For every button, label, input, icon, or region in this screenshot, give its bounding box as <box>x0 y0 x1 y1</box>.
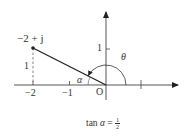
alpha-label: α <box>77 75 82 85</box>
alpha-arc <box>88 77 90 85</box>
point-label: −2 + j <box>17 33 43 44</box>
fraction-denominator: 2 <box>115 124 120 130</box>
caption-tan-alpha: tan α = 12 <box>86 117 120 130</box>
vertical-leg-label: 1 <box>24 61 29 71</box>
theta-label: θ <box>121 52 126 62</box>
origin-label: O <box>96 87 103 97</box>
theta-arc <box>88 65 126 85</box>
y-tick-label-1: 1 <box>97 43 102 53</box>
fraction-numerator: 1 <box>115 117 120 124</box>
caption-fraction: 12 <box>115 117 120 130</box>
caption-equals: = <box>105 118 115 128</box>
vector-line <box>34 49 106 86</box>
point-dot <box>31 46 35 50</box>
x-tick-label-minus-1: −1 <box>62 88 73 98</box>
caption-prefix: tan <box>86 118 100 128</box>
x-tick-label-minus-2: −2 <box>25 88 36 98</box>
